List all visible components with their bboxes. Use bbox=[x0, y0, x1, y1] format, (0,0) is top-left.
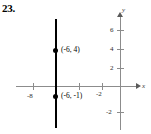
y-tick-4 bbox=[117, 49, 124, 50]
x-axis-label: x bbox=[142, 82, 145, 90]
y-tick-6 bbox=[117, 30, 124, 31]
plotted-line bbox=[55, 19, 57, 128]
y-tick-label-minus2: -2 bbox=[106, 108, 112, 116]
data-point-upper-label: (-6, 4) bbox=[61, 45, 80, 54]
problem-number: 23. bbox=[2, 2, 15, 14]
x-tick-label-minus2: -2 bbox=[96, 90, 102, 98]
y-axis-label: y bbox=[122, 6, 125, 14]
x-tick-label-minus8: -8 bbox=[27, 92, 33, 100]
y-tick-label-2: 2 bbox=[110, 64, 114, 72]
data-point-lower-label: (-6, -1) bbox=[61, 91, 82, 100]
y-tick-2 bbox=[117, 68, 124, 69]
y-tick-minus2 bbox=[117, 112, 124, 113]
x-tick-minus2 bbox=[102, 83, 103, 90]
y-tick-label-6: 6 bbox=[110, 26, 114, 34]
y-tick-label-4: 4 bbox=[110, 45, 114, 53]
data-point-lower bbox=[53, 94, 58, 99]
x-axis-arrow-icon bbox=[136, 83, 141, 89]
x-tick-minus4 bbox=[79, 83, 80, 90]
data-point-upper bbox=[53, 48, 58, 53]
x-tick-minus8 bbox=[33, 83, 34, 90]
figure-container: 23. x y -8 -2 6 4 2 -2 (-6, 4) (-6, -1) bbox=[0, 0, 151, 134]
